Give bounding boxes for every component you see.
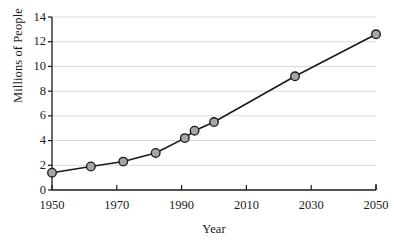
plot-area bbox=[0, 0, 394, 247]
data-line bbox=[52, 34, 376, 172]
data-point bbox=[48, 168, 57, 177]
data-point bbox=[119, 157, 128, 166]
data-point bbox=[181, 134, 190, 143]
data-point bbox=[291, 72, 300, 81]
data-point bbox=[151, 149, 160, 158]
line-chart: Millions of People Year 02468101214 1950… bbox=[0, 0, 394, 247]
data-markers bbox=[48, 30, 381, 177]
data-point bbox=[87, 162, 96, 171]
tick-marks bbox=[48, 17, 376, 190]
data-point bbox=[190, 126, 199, 135]
data-point bbox=[210, 118, 219, 127]
series-line bbox=[52, 34, 376, 172]
gridlines bbox=[52, 17, 376, 165]
data-point bbox=[372, 30, 381, 39]
axes bbox=[52, 17, 376, 190]
